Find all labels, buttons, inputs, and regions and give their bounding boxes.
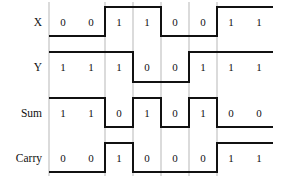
bit-value: 1 [200,61,206,73]
bit-value: 1 [200,107,206,119]
bit-value: 0 [144,61,150,73]
bit-value: 0 [144,152,150,164]
bit-value: 1 [144,107,150,119]
bit-value: 0 [172,16,178,28]
signal-label-carry: Carry [16,152,42,165]
timing-diagram-canvas: X00110011Y11100111Sum11010100Carry001000… [0,0,286,182]
signal-label-sum: Sum [21,107,42,119]
bit-value: 0 [88,152,94,164]
bit-value: 1 [228,61,234,73]
bit-value: 1 [144,16,150,28]
bit-value: 0 [228,107,234,119]
timing-diagram: X00110011Y11100111Sum11010100Carry001000… [0,0,286,182]
bit-value: 0 [200,16,206,28]
bit-value: 1 [116,61,122,73]
bit-value: 1 [256,61,262,73]
bit-value: 0 [172,107,178,119]
waveform-sum [49,98,273,127]
bit-value: 0 [60,152,66,164]
bit-value: 0 [116,107,122,119]
signal-label-x: X [34,16,43,28]
waveform-x [49,7,273,36]
bit-value: 0 [256,107,262,119]
bit-value: 0 [60,16,66,28]
bit-value: 0 [172,152,178,164]
bit-value: 1 [88,61,94,73]
bit-value: 0 [88,16,94,28]
bit-value: 1 [256,16,262,28]
signal-label-y: Y [34,61,43,73]
bit-value: 1 [228,16,234,28]
bit-value: 1 [116,16,122,28]
bit-value: 1 [88,107,94,119]
bit-value: 1 [256,152,262,164]
bit-value: 1 [60,61,66,73]
bit-value: 1 [60,107,66,119]
bit-value: 1 [228,152,234,164]
bit-value: 1 [116,152,122,164]
bit-value: 0 [200,152,206,164]
bit-value: 0 [172,61,178,73]
